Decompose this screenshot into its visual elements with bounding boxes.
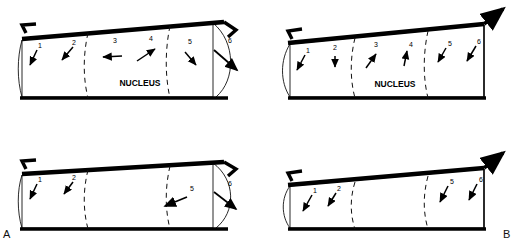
svg-text:2: 2 [337,185,341,192]
left-cap [283,186,290,228]
panel-a-top: 1 2 3 4 5 6 NUCLEUS [18,22,237,98]
svg-text:6: 6 [477,38,481,45]
svg-text:5: 5 [188,38,192,45]
left-hook-arrow [288,171,302,181]
cell-body-outline [22,23,213,97]
svg-text:3: 3 [113,37,117,44]
svg-text:1: 1 [38,176,42,183]
svg-text:4: 4 [149,35,153,42]
right-cap [213,23,231,97]
svg-text:5: 5 [190,185,194,192]
svg-text:6: 6 [228,180,232,187]
left-cap [18,175,22,228]
left-cap [283,44,291,97]
right-diagonal-arrow [484,9,503,24]
svg-text:1: 1 [313,187,317,194]
left-hook-arrow [22,24,36,33]
svg-text:5: 5 [448,40,452,47]
diagram-svg: 1 2 3 4 5 6 NUCLEUS [0,0,516,249]
svg-text:5: 5 [450,178,454,185]
svg-text:4: 4 [409,41,413,48]
nucleus-label: NUCLEUS [374,79,415,89]
svg-text:2: 2 [72,39,76,46]
left-hook-arrow [22,160,36,169]
panel-b-bottom: 1 2 5 6 [283,153,503,229]
panel-label-b: B [503,228,511,240]
svg-text:2: 2 [72,174,76,181]
figure-canvas: 1 2 3 4 5 6 NUCLEUS [0,0,516,249]
right-hook-arrow [224,162,236,176]
nucleus-label: NUCLEUS [119,78,160,88]
panel-a-bottom: 1 2 5 6 [18,160,236,229]
svg-text:1: 1 [38,42,42,49]
svg-text:2: 2 [333,44,337,51]
flow-marker-6: 6 [214,37,237,70]
left-cap [18,40,22,97]
svg-text:3: 3 [374,41,378,48]
left-hook-arrow [288,29,302,39]
svg-text:6: 6 [228,37,232,44]
svg-text:6: 6 [479,176,483,183]
panel-b-top: 1 2 3 4 5 6 NUCLEUS [283,9,504,98]
right-diagonal-arrow [484,153,503,168]
svg-text:1: 1 [306,47,310,54]
right-cap [213,163,231,228]
flow-marker-6: 6 [214,180,236,209]
panel-label-a: A [3,228,11,240]
right-hook-arrow [224,22,236,37]
